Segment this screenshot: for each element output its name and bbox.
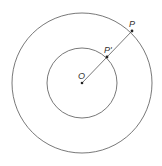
- point-p: [131, 30, 134, 33]
- point-o: [81, 82, 84, 85]
- point-p-prime: [106, 56, 109, 59]
- diagram-canvas: O P' P: [0, 0, 162, 166]
- label-o: O: [78, 71, 85, 81]
- label-p: P: [129, 19, 135, 29]
- label-p-prime: P': [104, 45, 112, 55]
